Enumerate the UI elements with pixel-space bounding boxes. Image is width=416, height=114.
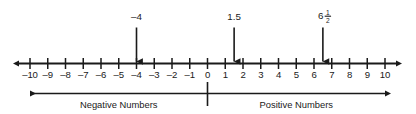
annotation-label-whole: 6 bbox=[318, 10, 324, 21]
annotation-label-denominator: 2 bbox=[326, 17, 330, 24]
tick-label: –2 bbox=[167, 69, 177, 80]
tick-label: –8 bbox=[60, 69, 70, 80]
tick-label: –7 bbox=[78, 69, 88, 80]
region-right: Positive Numbers bbox=[208, 94, 386, 110]
tick-label-group: –10–9–8–7–6–5–4–3–2–1012345678910 bbox=[22, 69, 390, 80]
annotation-6neg5: 612 bbox=[318, 9, 331, 62]
tick-label: 7 bbox=[329, 69, 334, 80]
region-label: Positive Numbers bbox=[260, 99, 334, 110]
tick-group bbox=[30, 58, 385, 69]
tick-label: 8 bbox=[347, 69, 352, 80]
annotation-1neg5: 1.5 bbox=[227, 11, 241, 62]
tick-label: 2 bbox=[240, 69, 245, 80]
annotation-label: –4 bbox=[131, 11, 142, 22]
annotation-label: 1.5 bbox=[227, 11, 241, 22]
annotation-neg4: –4 bbox=[131, 11, 142, 62]
tick-label: –9 bbox=[43, 69, 53, 80]
tick-label: 10 bbox=[380, 69, 390, 80]
tick-label: 5 bbox=[294, 69, 299, 80]
tick-label: –6 bbox=[96, 69, 106, 80]
tick-label: 9 bbox=[365, 69, 370, 80]
tick-label: 6 bbox=[311, 69, 316, 80]
annotation-group: –41.5612 bbox=[131, 9, 331, 62]
tick-label: –1 bbox=[185, 69, 195, 80]
tick-label: –5 bbox=[114, 69, 124, 80]
tick-label: –10 bbox=[22, 69, 38, 80]
tick-label: –3 bbox=[149, 69, 159, 80]
number-line-figure: –10–9–8–7–6–5–4–3–2–1012345678910 –41.56… bbox=[0, 0, 416, 114]
tick-label: 3 bbox=[258, 69, 263, 80]
tick-label: 4 bbox=[276, 69, 282, 80]
annotation-label-numerator: 1 bbox=[326, 9, 330, 16]
tick-label: 1 bbox=[223, 69, 228, 80]
number-line-canvas: –10–9–8–7–6–5–4–3–2–1012345678910 –41.56… bbox=[0, 0, 416, 114]
region-left: Negative Numbers bbox=[30, 94, 208, 110]
tick-label: 0 bbox=[205, 69, 210, 80]
region-label: Negative Numbers bbox=[80, 99, 158, 110]
tick-label: –4 bbox=[131, 69, 142, 80]
